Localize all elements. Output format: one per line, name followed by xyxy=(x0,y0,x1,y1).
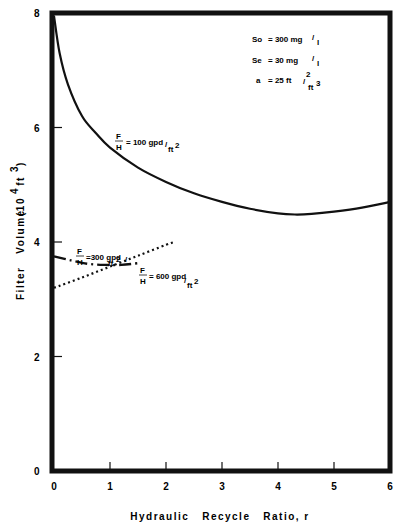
curve-100-gpd xyxy=(54,16,390,215)
param-se-unit: l xyxy=(317,59,319,68)
x-tick-label: 6 xyxy=(387,481,393,492)
y-axis-unit-ft: ft xyxy=(15,176,26,190)
param-so-slash: / xyxy=(312,33,315,42)
x-tick-label: 5 xyxy=(331,481,337,492)
y-tick-label: 2 xyxy=(34,352,40,363)
param-se-label: Se xyxy=(252,56,262,65)
fh-100-F: F xyxy=(116,132,121,141)
x-tick-label: 0 xyxy=(51,481,57,492)
label-600-gpd: F H = 600 gpd / ft 2 xyxy=(139,266,199,290)
parameter-block: So = 300 mg / l Se = 30 mg / l a = 25 ft… xyxy=(252,33,321,92)
y-tick-label: 6 xyxy=(34,123,40,134)
param-a-den: ft xyxy=(308,83,314,92)
curve600-value: = 600 gpd xyxy=(149,272,186,281)
ft: ft xyxy=(168,145,174,154)
y-tick-label: 4 xyxy=(34,237,40,248)
y-axis-unit-open: (10 xyxy=(15,197,26,216)
y-tick-label: 8 xyxy=(34,8,40,19)
x-axis-title: Hydraulic Recycle Ratio, r xyxy=(130,511,310,522)
param-se-slash: / xyxy=(312,54,315,63)
param-so-label: So xyxy=(252,35,262,44)
y-axis-title-main: Filter Volume xyxy=(15,209,26,300)
param-a-value: = 25 ft xyxy=(268,76,292,85)
y-tick-label: 0 xyxy=(34,466,40,477)
param-se-value: = 30 mg xyxy=(268,56,298,65)
y-axis-ticks: 02468 xyxy=(34,8,62,477)
x-tick-label: 3 xyxy=(219,481,225,492)
param-a-den-exp: 3 xyxy=(316,79,321,88)
param-a-label: a xyxy=(256,76,261,85)
ft: ft xyxy=(108,259,114,268)
x-tick-label: 4 xyxy=(275,481,281,492)
param-so-unit: l xyxy=(317,38,319,47)
filter-volume-chart: 02468 0123456 So = 300 mg / l Se = 30 mg… xyxy=(0,0,404,528)
fh-300-F: F xyxy=(77,247,82,256)
slash: / xyxy=(125,255,128,264)
y-axis-unit-close: ) xyxy=(15,161,26,166)
ft-exp: 2 xyxy=(116,255,121,264)
label-100-gpd: F H = 100 gpd / ft 2 xyxy=(115,132,180,154)
fh-300-H: H xyxy=(77,258,83,267)
fh-600-H: H xyxy=(140,277,146,286)
fh-100-H: H xyxy=(116,143,122,152)
ft: ft xyxy=(187,281,193,290)
param-so-value: = 300 mg xyxy=(268,35,303,44)
ft-exp: 2 xyxy=(194,277,199,286)
ft-exp: 2 xyxy=(175,141,180,150)
fh-600-F: F xyxy=(140,266,145,275)
x-tick-label: 1 xyxy=(107,481,113,492)
curve100-value: = 100 gpd xyxy=(126,138,163,147)
x-axis-ticks: 0123456 xyxy=(51,462,393,492)
plot-frame xyxy=(52,13,390,471)
y-axis-title: Filter Volume (10 4 ft 3 ) xyxy=(9,161,26,300)
x-tick-label: 2 xyxy=(163,481,169,492)
param-a-exp: 2 xyxy=(306,70,311,79)
